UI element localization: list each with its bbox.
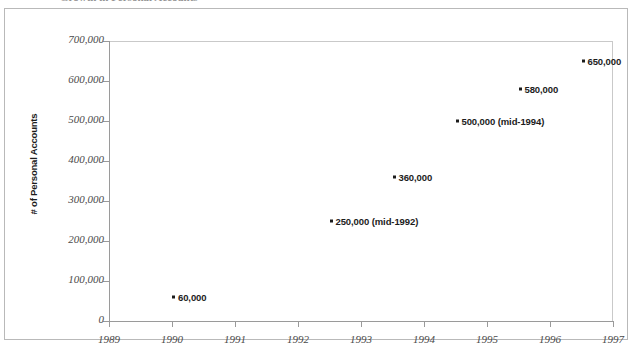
axis-left [109,41,110,321]
y-tick-label: 700,000 [68,33,104,45]
x-tick-label: 1990 [161,333,183,345]
y-axis-title: # of Personal Accounts [28,114,39,215]
x-tick-label: 1996 [539,333,561,345]
data-point-label: 250,000 (mid-1992) [336,216,419,227]
axis-right [612,41,613,321]
data-point-label: 500,000 (mid-1994) [462,116,545,127]
axis-top [109,41,613,42]
data-point: 250,000 (mid-1992) [330,216,419,227]
x-tick-label: 1993 [350,333,372,345]
data-point-marker [330,220,333,223]
data-point: 360,000 [393,172,433,183]
x-tick-mark [424,321,425,327]
data-point: 60,000 [172,292,206,303]
x-tick-label: 1989 [98,333,120,345]
plot-area: 0100,000200,000300,000400,000500,000600,… [109,41,613,321]
x-tick-mark [613,321,614,327]
chart-title-clipped: Growth in Personal Accounts [60,0,320,3]
x-tick-label: 1997 [602,333,624,345]
data-point-marker [519,88,522,91]
x-tick-mark [235,321,236,327]
x-tick-mark [361,321,362,327]
y-tick-label: 600,000 [68,73,104,85]
y-tick-label: 100,000 [68,273,104,285]
data-point-label: 650,000 [588,56,622,67]
y-tick-label: 500,000 [68,113,104,125]
data-point-marker [393,176,396,179]
data-point-label: 360,000 [399,172,433,183]
x-tick-label: 1992 [287,333,309,345]
y-tick-label: 400,000 [68,153,104,165]
data-point-marker [582,60,585,63]
data-point-marker [172,296,175,299]
data-point: 580,000 [519,84,559,95]
data-point-marker [456,120,459,123]
x-tick-mark [298,321,299,327]
data-point-label: 580,000 [525,84,559,95]
x-tick-label: 1994 [413,333,435,345]
y-tick-label: 300,000 [68,193,104,205]
data-point: 500,000 (mid-1994) [456,116,545,127]
x-tick-mark [487,321,488,327]
figure-frame: # of Personal Accounts 0100,000200,00030… [4,8,628,340]
data-point-label: 60,000 [178,292,206,303]
y-tick-label: 200,000 [68,233,104,245]
x-tick-mark [172,321,173,327]
x-tick-mark [109,321,110,327]
x-tick-label: 1991 [224,333,246,345]
x-tick-label: 1995 [476,333,498,345]
y-tick-label: 0 [99,313,105,325]
data-point: 650,000 [582,56,622,67]
x-tick-mark [550,321,551,327]
